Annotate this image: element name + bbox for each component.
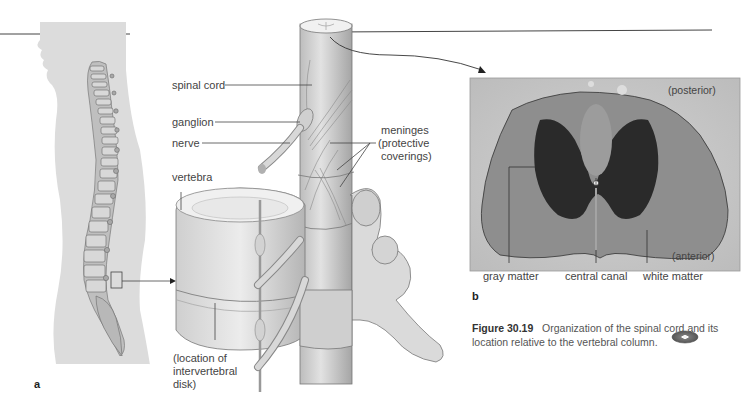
- figure-caption: Figure 30.19 Organization of the spinal …: [472, 321, 742, 349]
- label-disk-2: intervertebral: [173, 365, 237, 378]
- label-central-canal: central canal: [565, 270, 627, 283]
- cross-section-photo: [470, 78, 740, 271]
- label-disk-1: (location of: [173, 352, 227, 365]
- label-nerve: nerve: [172, 137, 200, 150]
- panel-letter-b: b: [472, 290, 479, 302]
- label-ganglion: ganglion: [172, 116, 214, 129]
- label-meninges: meninges: [381, 124, 429, 137]
- label-meninges-note-2: coverings): [381, 150, 432, 163]
- label-meninges-note-1: (protective: [378, 137, 429, 150]
- label-anterior: (anterior): [672, 250, 715, 263]
- label-disk-3: disk): [173, 378, 196, 391]
- cross-section-arrow: [330, 37, 486, 73]
- label-spinal-cord: spinal cord: [172, 79, 225, 92]
- label-white-matter: white matter: [643, 270, 703, 283]
- figure-number: Figure 30.19: [472, 322, 533, 334]
- label-vertebra: vertebra: [172, 171, 212, 184]
- label-gray-matter: gray matter: [483, 270, 539, 283]
- panel-letter-a: a: [34, 378, 40, 390]
- label-posterior: (posterior): [668, 84, 716, 97]
